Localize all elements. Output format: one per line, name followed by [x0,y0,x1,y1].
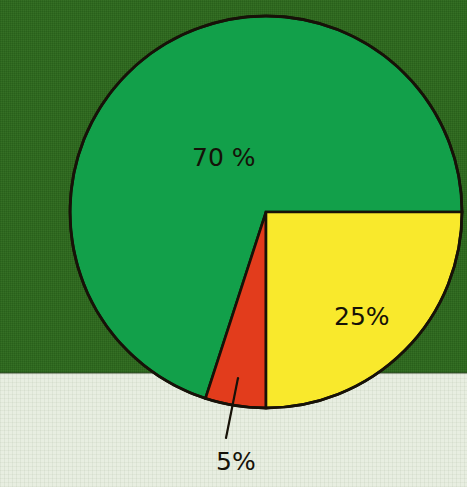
slice-label-red: 5% [216,447,256,476]
slice-label-yellow: 25% [334,302,390,331]
slice-label-green: 70 % [192,143,256,172]
pie-chart-svg: 70 % 25% 5% [0,0,467,487]
pie-chart-figure: 70 % 25% 5% [0,0,467,487]
